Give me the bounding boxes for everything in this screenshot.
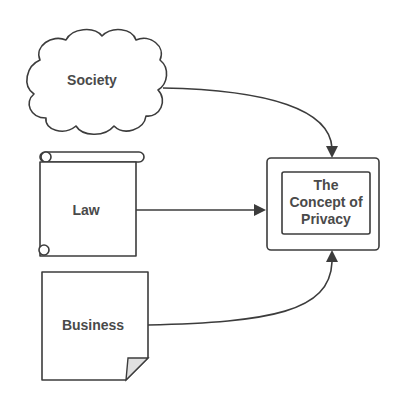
- arrow-line: [163, 88, 332, 148]
- law-label: Law: [72, 202, 99, 218]
- privacy-label-line-3: Privacy: [301, 211, 351, 227]
- node-business: Business: [42, 272, 148, 380]
- folded-corner: [126, 358, 148, 380]
- node-society: Society: [27, 30, 167, 135]
- edge-business-privacy: [148, 250, 338, 325]
- arrow-line: [148, 262, 332, 325]
- privacy-label-line-1: The: [314, 177, 339, 193]
- scroll-top-curl: [41, 152, 51, 162]
- society-label: Society: [67, 72, 117, 88]
- node-law: Law: [39, 152, 144, 256]
- business-label: Business: [62, 317, 124, 333]
- scroll-top-roll: [40, 152, 144, 162]
- privacy-label-line-2: Concept of: [289, 194, 362, 210]
- scroll-bottom-curl: [39, 245, 49, 255]
- arrowhead-icon: [254, 204, 266, 216]
- arrowhead-icon: [326, 146, 338, 158]
- edge-law-privacy: [136, 204, 266, 216]
- diagram-canvas: Society Law Business The Concept of Priv…: [0, 0, 414, 401]
- node-privacy: The Concept of Privacy: [267, 158, 379, 250]
- arrowhead-icon: [326, 250, 338, 262]
- edge-society-privacy: [163, 88, 338, 158]
